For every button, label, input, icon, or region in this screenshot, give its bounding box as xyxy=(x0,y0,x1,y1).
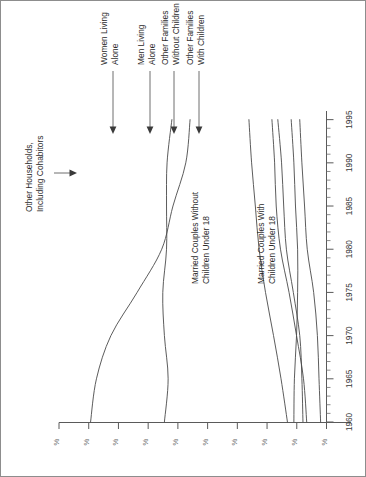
series-curve xyxy=(291,120,298,422)
label-other-families-with-line2: With Children xyxy=(196,14,206,65)
percent-tick-label: % xyxy=(111,438,120,445)
label-married-without-line2: Children Under 18 xyxy=(201,216,211,284)
percent-tick-label: % xyxy=(141,438,150,445)
label-married-without-line1: Married Couples Without xyxy=(190,191,200,284)
leader-lines xyxy=(54,71,202,176)
percent-tick-label: % xyxy=(290,438,299,445)
year-tick-label: 1960 xyxy=(345,412,354,431)
year-tick-label: 1970 xyxy=(345,326,354,345)
series-labels: Women Living Alone Men Living Alone Othe… xyxy=(24,3,277,284)
percent-tick-label: % xyxy=(320,438,329,445)
year-tick-label: 1995 xyxy=(345,110,354,129)
label-other-families-without-line1: Other Families xyxy=(160,11,170,65)
series-curve xyxy=(163,120,172,422)
label-other-families-without-line2: Without Children xyxy=(171,3,181,65)
figure-frame: 19601965197019751980198519901995 %%%%%%%… xyxy=(0,0,366,477)
series-curve xyxy=(278,120,303,422)
label-married-with-line1: Married Couples With xyxy=(256,203,266,284)
series-curve xyxy=(91,120,191,422)
percent-tick-group: %%%%%%%%%% xyxy=(52,423,329,446)
percent-tick-label: % xyxy=(260,438,269,445)
percent-tick-label: % xyxy=(82,438,91,445)
percent-tick-label: % xyxy=(171,438,180,445)
label-other-families-with-line1: Other Families xyxy=(185,11,195,65)
year-tick-group: 19601965197019751980198519901995 xyxy=(327,110,355,431)
label-other-households-line2: Including Cohabitors xyxy=(35,136,45,212)
year-tick-label: 1990 xyxy=(345,153,354,172)
year-tick-label: 1980 xyxy=(345,240,354,259)
year-tick-label: 1975 xyxy=(345,283,354,302)
label-men-living-alone-line2: Alone xyxy=(147,43,157,65)
chart-stage: 19601965197019751980198519901995 %%%%%%%… xyxy=(1,1,366,477)
percent-tick-label: % xyxy=(52,438,61,445)
label-men-living-alone-line1: Men Living xyxy=(136,24,146,65)
label-married-with-line2: Children Under 18 xyxy=(267,216,277,284)
percent-tick-label: % xyxy=(201,438,210,445)
label-women-living-alone-line2: Alone xyxy=(110,43,120,65)
label-women-living-alone-line1: Women Living xyxy=(99,12,109,65)
percent-tick-label: % xyxy=(230,438,239,445)
year-tick-label: 1985 xyxy=(345,196,354,215)
household-composition-chart: 19601965197019751980198519901995 %%%%%%%… xyxy=(1,1,366,477)
year-tick-label: 1965 xyxy=(345,369,354,388)
label-other-households-line1: Other Households, xyxy=(24,142,34,212)
